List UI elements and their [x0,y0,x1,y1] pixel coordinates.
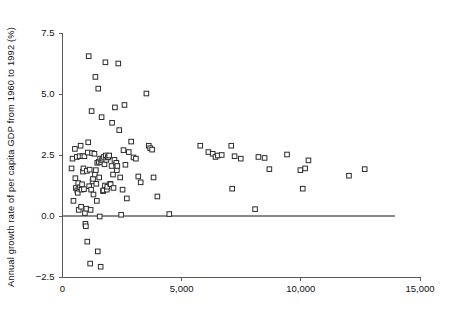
data-point [84,224,89,229]
data-point [198,143,203,148]
data-point [144,91,149,96]
data-point [167,212,172,217]
plot-canvas: −2.50.02.55.07.5 05,00010,00015,000 [0,0,456,313]
data-point [85,239,90,244]
data-point [230,186,235,191]
data-point [121,148,126,153]
data-point [73,176,78,181]
data-point [150,147,155,152]
data-point [103,60,108,65]
data-point [298,168,303,173]
data-point [73,147,78,152]
data-point [123,162,128,167]
data-point [80,182,85,187]
data-point [120,187,125,192]
data-point [89,109,94,114]
y-tick-label: 2.5 [41,149,54,160]
data-point [117,128,122,133]
data-point [115,164,120,169]
x-tick-label: 15,000 [405,283,434,294]
data-point [86,54,91,59]
data-point [285,152,290,157]
data-point [129,139,134,144]
data-point [219,153,224,158]
axes-group [63,33,421,277]
scatter-plot-figure: Annual growth rate of per capita GDP fro… [0,0,456,313]
data-point [97,175,102,180]
data-point [107,153,112,158]
data-point [99,115,104,120]
data-point [111,186,116,191]
x-tick-label: 10,000 [286,283,315,294]
data-point [125,196,130,201]
y-tick-label: 0.0 [41,210,54,221]
data-point [256,155,261,160]
y-tick-group: −2.50.02.55.07.5 [36,27,63,282]
x-tick-group: 05,00010,00015,000 [60,277,435,294]
data-point [86,140,91,145]
data-point [92,151,97,156]
data-point [96,86,101,91]
data-point [306,158,311,163]
data-point [97,214,102,219]
data-point [151,175,156,180]
data-point [94,181,99,186]
data-point [82,187,87,192]
y-tick-label: 5.0 [41,88,54,99]
data-point [89,187,94,192]
data-point [95,249,100,254]
data-point [98,264,103,269]
data-point [229,143,234,148]
data-point [138,180,143,185]
y-tick-label: −2.5 [36,271,55,282]
data-point [253,207,258,212]
data-point [262,156,267,161]
data-point [110,120,115,125]
data-point [116,61,121,66]
data-point [88,208,93,213]
data-points-group [69,54,367,269]
data-point [119,212,124,217]
data-point [94,168,99,173]
data-point [362,167,367,172]
x-tick-label: 5,000 [170,283,194,294]
data-point [347,173,352,178]
data-point [118,175,123,180]
data-point [303,166,308,171]
data-point [71,199,76,204]
data-point [267,167,272,172]
data-point [155,194,160,199]
data-point [300,186,305,191]
data-point [69,166,74,171]
data-point [88,261,93,266]
data-point [79,204,84,209]
y-tick-label: 7.5 [41,27,54,38]
data-point [109,164,114,169]
data-point [95,199,100,204]
data-point [122,103,127,108]
data-point [134,156,139,161]
data-point [136,174,141,179]
data-point [113,105,118,110]
data-point [78,143,83,148]
data-point [126,150,131,155]
x-tick-label: 0 [60,283,65,294]
data-point [91,192,96,197]
data-point [87,167,92,172]
data-point [232,154,237,159]
data-point [93,75,98,80]
data-point [238,156,243,161]
